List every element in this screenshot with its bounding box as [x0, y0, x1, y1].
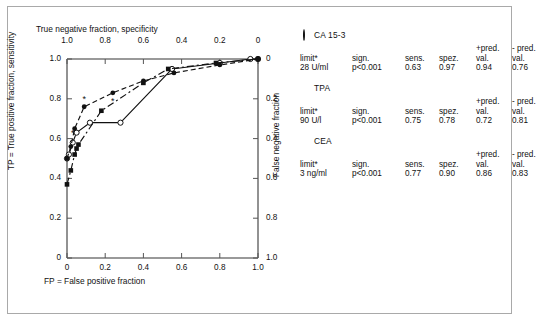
- tick-label: 0.4: [266, 135, 292, 143]
- marker-filled-square: [72, 152, 77, 157]
- tick-label: 0.6: [170, 264, 194, 272]
- tick-label: 0.4: [35, 174, 61, 182]
- legend-stat-value: p<0.001: [352, 169, 405, 179]
- marker-filled-square: [74, 146, 79, 151]
- legend-column-header: - pred.val.: [512, 97, 540, 116]
- legend-column-header: spez.: [439, 97, 476, 116]
- marker-filled-circle: [68, 144, 73, 149]
- legend-entry-ca-15-3: CA 15-3limit*sign.sens.spez.+pred.val.- …: [298, 28, 503, 73]
- asterisk-annotation: *: [82, 94, 86, 104]
- tick-label: 0.2: [208, 37, 232, 45]
- legend-column-header-line: limit*: [300, 107, 347, 117]
- legend-column-header-line: spez.: [439, 107, 471, 117]
- legend-series-name: TPA: [314, 83, 330, 93]
- legend-column-header: sign.: [352, 150, 405, 169]
- marker-filled-circle: [172, 71, 177, 76]
- legend-column-header: sens.: [405, 44, 439, 63]
- legend-stat-value: 0.78: [439, 116, 476, 126]
- tick-label: 0.8: [208, 264, 232, 272]
- legend-stats-table: limit*sign.sens.spez.+pred.val.- pred.va…: [300, 44, 540, 73]
- marker-filled-square: [166, 67, 171, 72]
- legend-stat-value: 90 U/l: [300, 116, 352, 126]
- marker-filled-square: [76, 142, 81, 147]
- legend-column-header-line: sens.: [405, 54, 434, 64]
- legend-stats-table: limit*sign.sens.spez.+pred.val.- pred.va…: [300, 150, 540, 179]
- legend-stats-value-row: 90 U/lp<0.0010.750.780.720.81: [300, 116, 540, 126]
- legend-column-header: +pred.val.: [476, 97, 512, 116]
- legend-stat-value: 0.83: [512, 169, 540, 179]
- tick-label: 0.8: [93, 37, 117, 45]
- open-circle-icon: [303, 29, 305, 41]
- legend-entry-tpa: TPAlimit*sign.sens.spez.+pred.val.- pred…: [298, 81, 503, 126]
- legend-entry-header: CA 15-3: [298, 28, 503, 41]
- legend-stat-value: p<0.001: [352, 116, 405, 126]
- tick-label: 1.0: [266, 254, 292, 262]
- asterisk-annotation: *: [71, 128, 75, 138]
- legend-column-header-line: val.: [476, 107, 507, 117]
- legend-marker-filled-square-icon: [298, 83, 307, 93]
- legend-column-header-line: +pred.: [476, 44, 507, 54]
- legend-stats-header-row: limit*sign.sens.spez.+pred.val.- pred.va…: [300, 97, 540, 116]
- legend-entry-header: TPA: [298, 81, 503, 94]
- tick-label: 0.8: [35, 95, 61, 103]
- tick-label: 0.4: [131, 264, 155, 272]
- tick-label: 0.2: [93, 264, 117, 272]
- legend-stat-value: 0.77: [405, 169, 439, 179]
- legend-column-header-line: val.: [512, 160, 540, 170]
- legend-series-name: CA 15-3: [314, 30, 346, 40]
- legend-entry-header: CEA: [298, 134, 503, 147]
- legend-column-header: sign.: [352, 97, 405, 116]
- tick-label: 0.2: [266, 95, 292, 103]
- legend-column-header-line: spez.: [439, 54, 471, 64]
- series-line-ca-15-3: [67, 59, 258, 159]
- tick-label: 0.4: [170, 37, 194, 45]
- legend-column-header-line: val.: [476, 54, 507, 64]
- tick-label: 1.0: [55, 37, 79, 45]
- marker-filled-circle: [65, 156, 70, 161]
- legend-series-name: CEA: [314, 136, 332, 146]
- series-line-tpa: [67, 59, 258, 184]
- bottom-axis-label: FP = False positive fraction: [44, 276, 145, 286]
- legend-column-header: sign.: [352, 44, 405, 63]
- legend-column-header-line: val.: [512, 54, 540, 64]
- legend-column-header: sens.: [405, 97, 439, 116]
- legend-stat-value: 0.86: [476, 169, 512, 179]
- legend-stat-value: p<0.001: [352, 63, 405, 73]
- tick-label: 1.0: [246, 264, 270, 272]
- legend-column-header-line: - pred.: [512, 150, 540, 160]
- legend-column-header: - pred.val.: [512, 44, 540, 63]
- tick-label: 0: [266, 55, 292, 63]
- legend-column-header-line: limit*: [300, 54, 347, 64]
- legend-marker-open-circle-icon: [298, 30, 307, 40]
- legend-column-header-line: +pred.: [476, 97, 507, 107]
- legend-column-header: limit*: [300, 150, 352, 169]
- legend: CA 15-3limit*sign.sens.spez.+pred.val.- …: [298, 28, 503, 187]
- series-line-cea: [67, 59, 258, 159]
- legend-stat-value: 28 U/ml: [300, 63, 352, 73]
- legend-column-header-line: sign.: [352, 107, 400, 117]
- legend-stats-value-row: 3 ng/mlp<0.0010.770.900.860.83: [300, 169, 540, 179]
- legend-column-header: - pred.val.: [512, 150, 540, 169]
- tick-label: 0.6: [131, 37, 155, 45]
- top-axis-label: True negative fraction, specificity: [36, 24, 158, 34]
- legend-column-header: sens.: [405, 150, 439, 169]
- legend-column-header-line: spez.: [439, 160, 471, 170]
- tick-label: 0.8: [266, 214, 292, 222]
- legend-stats-header-row: limit*sign.sens.spez.+pred.val.- pred.va…: [300, 150, 540, 169]
- legend-stat-value: 0.94: [476, 63, 512, 73]
- legend-stat-value: 3 ng/ml: [300, 169, 352, 179]
- legend-column-header: +pred.val.: [476, 150, 512, 169]
- legend-stats-header-row: limit*sign.sens.spez.+pred.val.- pred.va…: [300, 44, 540, 63]
- marker-filled-circle: [256, 57, 261, 62]
- legend-stat-value: 0.97: [439, 63, 476, 73]
- legend-stat-value: 0.72: [476, 116, 512, 126]
- marker-filled-circle: [217, 63, 222, 68]
- legend-entry-cea: CEAlimit*sign.sens.spez.+pred.val.- pred…: [298, 134, 503, 179]
- asterisk-annotation: *: [111, 96, 115, 106]
- legend-column-header-line: - pred.: [512, 44, 540, 54]
- marker-filled-square: [65, 182, 70, 187]
- tick-label: 0.6: [35, 135, 61, 143]
- legend-marker-filled-circle-icon: [298, 136, 307, 146]
- marker-filled-circle: [82, 104, 87, 109]
- legend-column-header: spez.: [439, 150, 476, 169]
